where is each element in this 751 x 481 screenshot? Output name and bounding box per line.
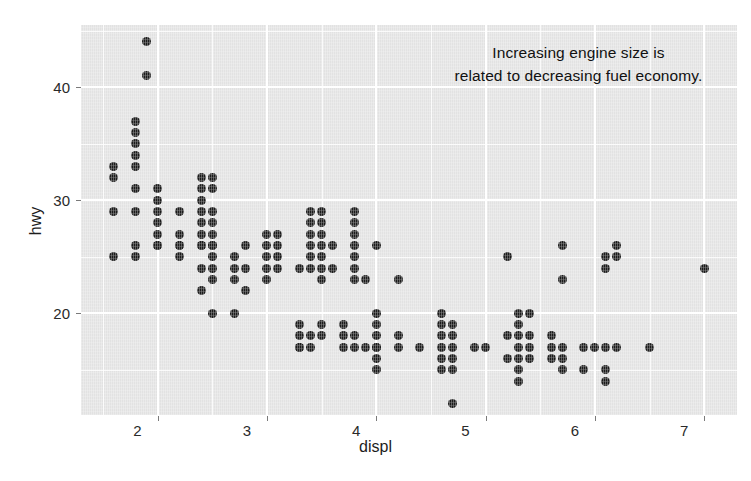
data-point — [175, 230, 184, 239]
data-point — [175, 252, 184, 261]
data-point — [208, 241, 217, 250]
data-point — [448, 365, 457, 374]
data-point — [350, 264, 359, 273]
data-point — [262, 241, 271, 250]
data-point — [514, 331, 523, 340]
data-point — [131, 151, 140, 160]
data-point — [448, 343, 457, 352]
data-point — [295, 320, 304, 329]
data-point — [514, 377, 523, 386]
x-tick-mark — [486, 416, 487, 421]
data-point — [328, 264, 337, 273]
data-point — [339, 343, 348, 352]
data-point — [153, 241, 162, 250]
data-point — [208, 230, 217, 239]
data-point — [208, 264, 217, 273]
y-tick-mark — [76, 200, 81, 201]
data-point — [317, 207, 326, 216]
data-point — [350, 343, 359, 352]
trend-annotation: Increasing engine size is related to dec… — [454, 41, 702, 87]
data-point — [317, 264, 326, 273]
data-point — [601, 365, 610, 374]
data-point — [372, 241, 381, 250]
chart-figure: Increasing engine size is related to dec… — [0, 0, 751, 481]
annotation-line-1: Increasing engine size is — [454, 41, 702, 64]
y-tick-mark — [76, 313, 81, 314]
data-point — [153, 184, 162, 193]
data-point — [262, 264, 271, 273]
data-point — [558, 365, 567, 374]
data-point — [437, 320, 446, 329]
data-point — [503, 252, 512, 261]
data-point — [273, 264, 282, 273]
data-point — [295, 343, 304, 352]
data-point — [601, 377, 610, 386]
data-point — [547, 354, 556, 363]
data-point — [306, 241, 315, 250]
data-point — [262, 275, 271, 284]
x-axis-title: displ — [0, 438, 751, 456]
data-point — [295, 331, 304, 340]
data-point — [153, 196, 162, 205]
data-point — [394, 343, 403, 352]
data-point — [208, 173, 217, 182]
data-point — [525, 343, 534, 352]
data-point — [131, 207, 140, 216]
data-point — [372, 343, 381, 352]
data-point — [197, 218, 206, 227]
data-point — [350, 252, 359, 261]
grid-major-vertical — [266, 25, 268, 415]
x-tick-mark — [595, 416, 596, 421]
data-point — [153, 218, 162, 227]
data-point — [590, 343, 599, 352]
data-point — [437, 309, 446, 318]
data-point — [306, 264, 315, 273]
data-point — [306, 252, 315, 261]
data-point — [437, 365, 446, 374]
data-point — [208, 218, 217, 227]
data-point — [525, 309, 534, 318]
data-point — [601, 264, 610, 273]
data-point — [612, 241, 621, 250]
data-point — [109, 173, 118, 182]
data-point — [612, 343, 621, 352]
grid-minor-vertical — [431, 25, 432, 415]
data-point — [350, 207, 359, 216]
y-tick-label: 20 — [24, 305, 70, 322]
data-point — [175, 241, 184, 250]
data-point — [230, 275, 239, 284]
data-point — [448, 354, 457, 363]
data-point — [109, 162, 118, 171]
data-point — [415, 343, 424, 352]
data-point — [241, 264, 250, 273]
data-point — [547, 343, 556, 352]
data-point — [306, 230, 315, 239]
data-point — [514, 343, 523, 352]
data-point — [295, 264, 304, 273]
data-point — [645, 343, 654, 352]
data-point — [175, 207, 184, 216]
data-point — [481, 343, 490, 352]
plot-panel: Increasing engine size is related to dec… — [81, 25, 737, 415]
data-point — [317, 241, 326, 250]
data-point — [547, 331, 556, 340]
data-point — [109, 207, 118, 216]
x-tick-label: 5 — [446, 422, 486, 439]
data-point — [558, 354, 567, 363]
data-point — [579, 343, 588, 352]
data-point — [437, 343, 446, 352]
x-tick-mark — [704, 416, 705, 421]
data-point — [153, 230, 162, 239]
data-point — [131, 128, 140, 137]
data-point — [208, 275, 217, 284]
data-point — [131, 241, 140, 250]
grid-minor-horizontal — [81, 370, 737, 371]
data-point — [612, 252, 621, 261]
x-tick-mark — [376, 416, 377, 421]
grid-major-horizontal — [81, 199, 737, 201]
data-point — [230, 309, 239, 318]
data-point — [503, 354, 512, 363]
data-point — [197, 241, 206, 250]
data-point — [208, 184, 217, 193]
data-point — [197, 230, 206, 239]
